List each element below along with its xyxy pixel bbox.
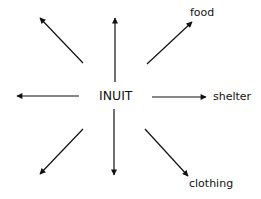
label-shelter: shelter xyxy=(213,91,251,103)
arrow-down-left xyxy=(40,129,83,174)
label-clothing: clothing xyxy=(189,178,233,190)
label-food: food xyxy=(190,7,214,19)
arrow-up-right xyxy=(147,22,192,64)
center-label-inuit: INUIT xyxy=(99,90,133,102)
arrow-up-left xyxy=(40,18,83,63)
arrow-down-right xyxy=(145,129,188,176)
